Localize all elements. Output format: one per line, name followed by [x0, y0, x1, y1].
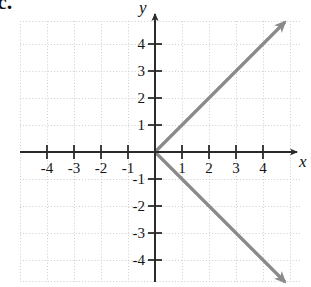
x-tick-label--3: -3	[68, 160, 81, 177]
y-tick-label-2: 2	[125, 90, 145, 107]
y-tick-label--1: -1	[118, 171, 145, 188]
graph-figure: c.	[0, 0, 311, 287]
y-tick-label-4: 4	[125, 36, 145, 53]
y-tick-label-3: 3	[125, 63, 145, 80]
ray-up-right	[155, 22, 285, 152]
x-tick-label-4: 4	[259, 160, 267, 177]
x-axis-label: x	[299, 152, 307, 172]
x-tick-label-2: 2	[205, 160, 213, 177]
x-tick-label-1: 1	[178, 160, 186, 177]
y-tick-label--2: -2	[118, 198, 145, 215]
y-tick-label--3: -3	[118, 225, 145, 242]
y-axis-label: y	[139, 0, 147, 18]
x-tick-label--4: -4	[41, 160, 54, 177]
y-tick-label-1: 1	[125, 117, 145, 134]
y-tick-label--4: -4	[118, 252, 145, 269]
x-tick-label--2: -2	[95, 160, 108, 177]
x-tick-label-3: 3	[232, 160, 240, 177]
coordinate-plane	[0, 0, 311, 287]
